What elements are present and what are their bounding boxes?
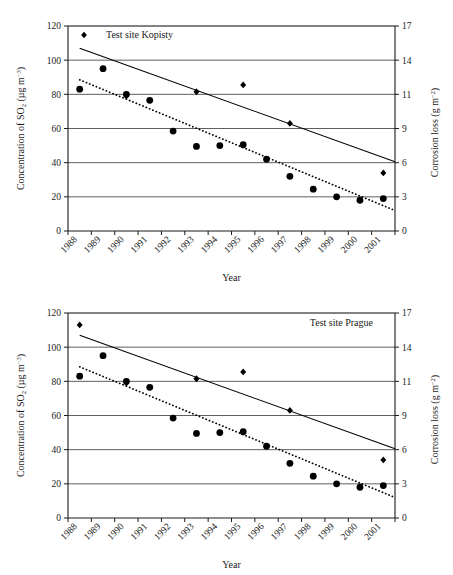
x-tick-label-1995: 1995 <box>222 234 243 255</box>
x-tick-label-1996: 1996 <box>245 521 266 542</box>
y-axis-left-title: Concentration of SO2 (µg m−3) <box>15 67 27 190</box>
x-tick-label-1993: 1993 <box>175 521 196 542</box>
point-so2-2000 <box>357 197 364 204</box>
x-tick-label-1995: 1995 <box>222 521 243 542</box>
point-so2-1995 <box>240 141 247 148</box>
gridlines <box>68 26 395 197</box>
y2-tick-label-0: 0 <box>402 226 407 236</box>
y-tick-label-100: 100 <box>47 56 62 66</box>
trendline-solid <box>80 48 395 162</box>
gridlines <box>68 313 395 484</box>
point-so2-1997 <box>286 173 293 180</box>
point-so2-1999 <box>333 193 340 200</box>
y-tick-label-40: 40 <box>52 158 62 168</box>
point-corrosion-1995 <box>240 82 246 89</box>
chart-label-text: Test site Prague <box>310 317 374 328</box>
point-so2-1991 <box>146 97 153 104</box>
y-tick-label-20: 20 <box>52 479 62 489</box>
chart-prague: 0204060801001200369111417198819891990199… <box>0 287 453 575</box>
point-corrosion-1997 <box>287 120 293 127</box>
point-so2-2001 <box>380 482 387 489</box>
point-corrosion-2001 <box>380 457 386 464</box>
y2-tick-label-11: 11 <box>402 90 411 100</box>
x-tick-label-1988: 1988 <box>59 234 80 255</box>
x-tick-label-2000: 2000 <box>339 234 360 255</box>
x-tick-label-2001: 2001 <box>362 521 383 542</box>
point-corrosion-1995 <box>240 369 246 376</box>
y-tick-label-40: 40 <box>52 445 62 455</box>
point-so2-1988 <box>76 373 83 380</box>
y2-tick-label-0: 0 <box>402 513 407 523</box>
point-so2-1989 <box>100 352 107 359</box>
x-tick-label-1998: 1998 <box>292 521 313 542</box>
y-axis-right-title: Corrosion loss (g m−2) <box>429 375 441 464</box>
point-so2-1996 <box>263 443 270 450</box>
x-axis-title: Year <box>222 272 241 283</box>
chart-panel-kopisty: 0204060801001200369111417198819891990199… <box>0 0 453 288</box>
trendlines <box>80 48 395 210</box>
figure-page: 0204060801001200369111417198819891990199… <box>0 0 453 575</box>
trendlines <box>80 335 395 497</box>
point-so2-1989 <box>100 65 107 72</box>
x-tick-label-1991: 1991 <box>129 521 150 542</box>
x-tick-label-1989: 1989 <box>82 234 103 255</box>
x-tick-label-1989: 1989 <box>82 521 103 542</box>
y2-tick-label-6: 6 <box>402 445 407 455</box>
y2-tick-label-14: 14 <box>402 56 412 66</box>
point-so2-1992 <box>170 128 177 135</box>
y-axis-left-title: Concentration of SO2 (µg m−3) <box>15 354 27 477</box>
y2-tick-label-3: 3 <box>402 192 407 202</box>
x-tick-label-1991: 1991 <box>129 234 150 255</box>
y-axis-right-ticks: 0369111417 <box>395 308 412 523</box>
x-tick-label-1994: 1994 <box>199 234 220 255</box>
x-tick-label-1997: 1997 <box>269 521 290 542</box>
point-corrosion-1997 <box>287 407 293 414</box>
point-so2-1992 <box>170 415 177 422</box>
y2-tick-label-17: 17 <box>402 308 412 318</box>
y-axis-left-ticks: 020406080100120 <box>47 21 68 236</box>
y2-tick-label-3: 3 <box>402 479 407 489</box>
y2-tick-label-9: 9 <box>402 124 407 134</box>
point-so2-1991 <box>146 384 153 391</box>
point-so2-1998 <box>310 186 317 193</box>
x-axis-ticks: 1988198919901991199219931994199519961997… <box>59 518 395 542</box>
y-tick-label-20: 20 <box>52 192 62 202</box>
y2-tick-label-17: 17 <box>402 21 412 31</box>
x-tick-label-1997: 1997 <box>269 234 290 255</box>
y-axis-right-title: Corrosion loss (g m−2) <box>429 88 441 177</box>
y-tick-label-120: 120 <box>47 308 62 318</box>
svg-text:Corrosion loss (g m−2): Corrosion loss (g m−2) <box>429 375 441 464</box>
x-axis-ticks: 1988198919901991199219931994199519961997… <box>59 231 395 255</box>
point-corrosion-2001 <box>380 170 386 177</box>
y-tick-label-0: 0 <box>56 513 61 523</box>
svg-text:Corrosion loss (g m−2): Corrosion loss (g m−2) <box>429 88 441 177</box>
point-so2-2000 <box>357 484 364 491</box>
x-tick-label-1992: 1992 <box>152 234 173 255</box>
y-tick-label-0: 0 <box>56 226 61 236</box>
chart-panel-prague: 0204060801001200369111417198819891990199… <box>0 287 453 575</box>
point-so2-1996 <box>263 156 270 163</box>
point-so2-1994 <box>216 142 223 149</box>
y-tick-label-120: 120 <box>47 21 62 31</box>
x-tick-label-2001: 2001 <box>362 234 383 255</box>
y-axis-right-ticks: 0369111417 <box>395 21 412 236</box>
x-tick-label-1990: 1990 <box>105 234 126 255</box>
chart-kopisty: 0204060801001200369111417198819891990199… <box>0 0 453 288</box>
point-so2-1993 <box>193 430 200 437</box>
y-tick-label-60: 60 <box>52 411 62 421</box>
x-tick-label-1988: 1988 <box>59 521 80 542</box>
svg-text:Concentration of SO2 (µg m−3): Concentration of SO2 (µg m−3) <box>15 354 27 477</box>
point-so2-1993 <box>193 143 200 150</box>
y-tick-label-80: 80 <box>52 90 62 100</box>
point-so2-1998 <box>310 473 317 480</box>
y-tick-label-80: 80 <box>52 377 62 387</box>
point-so2-1997 <box>286 460 293 467</box>
y-tick-label-100: 100 <box>47 343 62 353</box>
y-axis-left-ticks: 020406080100120 <box>47 308 68 523</box>
y-tick-label-60: 60 <box>52 124 62 134</box>
point-so2-1994 <box>216 429 223 436</box>
x-tick-label-1993: 1993 <box>175 234 196 255</box>
y2-tick-label-11: 11 <box>402 377 411 387</box>
point-so2-2001 <box>380 195 387 202</box>
point-corrosion-1988 <box>77 322 83 329</box>
